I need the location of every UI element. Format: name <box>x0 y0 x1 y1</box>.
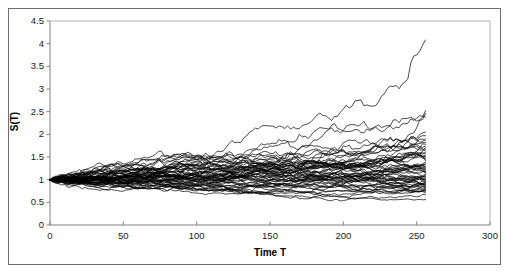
y-tick-label: 2.5 <box>31 107 44 117</box>
y-tick-label: 3 <box>39 84 44 94</box>
y-tick-label: 1.5 <box>31 152 44 162</box>
x-tick-label: 150 <box>245 231 295 241</box>
x-tick-label: 200 <box>318 231 368 241</box>
x-tick-label: 0 <box>25 231 75 241</box>
y-tick-label: 0 <box>39 220 44 230</box>
y-tick-label: 3.5 <box>31 61 44 71</box>
y-tick-label: 1 <box>39 175 44 185</box>
x-axis-title: Time T <box>25 247 511 258</box>
y-tick-label: 4.5 <box>31 16 44 26</box>
x-tick-label: 50 <box>98 231 148 241</box>
x-tick-label: 250 <box>392 231 442 241</box>
x-tick-label: 100 <box>172 231 222 241</box>
y-tick-label: 2 <box>39 129 44 139</box>
x-tick-label: 300 <box>465 231 511 241</box>
figure: 00.511.522.533.544.5050100150200250300 T… <box>0 0 511 275</box>
y-axis-title: S(T) <box>9 102 20 142</box>
y-tick-label: 4 <box>39 39 44 49</box>
y-tick-label: 0.5 <box>31 197 44 207</box>
